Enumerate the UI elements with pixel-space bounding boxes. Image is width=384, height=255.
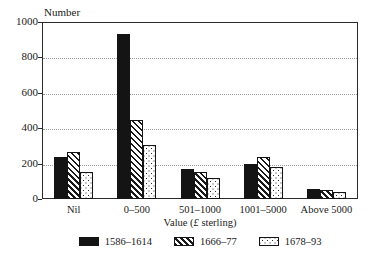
legend-item: 1666–77 bbox=[174, 236, 237, 248]
x-axis-tick-labels: Nil0–500501–10001001–5000Above 5000 bbox=[42, 203, 358, 217]
bar bbox=[143, 145, 156, 199]
bar bbox=[194, 172, 207, 199]
bar bbox=[270, 167, 283, 199]
legend-swatch bbox=[259, 237, 279, 246]
x-axis-tick-label: Above 5000 bbox=[295, 203, 358, 216]
bars-layer bbox=[42, 22, 358, 199]
bar bbox=[181, 169, 194, 199]
bar-group bbox=[244, 22, 283, 199]
y-axis-tick-label-wrap: 400 bbox=[0, 122, 38, 133]
bar bbox=[207, 178, 220, 199]
y-axis-tick-label: 1000 bbox=[2, 16, 38, 27]
y-axis-tick-label: 400 bbox=[2, 122, 38, 133]
legend-item: 1586–1614 bbox=[79, 236, 152, 248]
x-axis-tick-label: 0–500 bbox=[105, 203, 168, 216]
chart-legend: 1586–16141666–771678–93 bbox=[42, 234, 358, 249]
legend-label: 1586–1614 bbox=[105, 236, 152, 248]
bar bbox=[80, 172, 93, 199]
legend-label: 1666–77 bbox=[200, 236, 237, 248]
x-axis-tick-label: 1001–5000 bbox=[232, 203, 295, 216]
bar bbox=[67, 152, 80, 199]
legend-swatch bbox=[79, 237, 99, 246]
bar-group bbox=[307, 22, 346, 199]
bar bbox=[130, 120, 143, 199]
bar bbox=[320, 190, 333, 199]
y-axis-tick-label: 0 bbox=[2, 193, 38, 204]
y-axis-tick-label-wrap: 800 bbox=[0, 51, 38, 62]
bar-group bbox=[181, 22, 220, 199]
y-axis-tick-label-wrap: 1000 bbox=[0, 16, 38, 27]
x-axis-tick-label: Nil bbox=[42, 203, 105, 216]
legend-item: 1678–93 bbox=[259, 236, 322, 248]
bar bbox=[257, 157, 270, 199]
bar bbox=[333, 192, 346, 199]
x-axis-title-prefix: Value ( bbox=[164, 217, 194, 228]
bar bbox=[54, 157, 67, 199]
bar bbox=[117, 34, 130, 199]
y-axis-tick-label-wrap: 0 bbox=[0, 193, 38, 204]
y-axis-tick-label: 600 bbox=[2, 87, 38, 98]
y-axis-title: Number bbox=[44, 6, 80, 19]
bar-group bbox=[117, 22, 156, 199]
bar bbox=[244, 164, 257, 199]
bar-group bbox=[54, 22, 93, 199]
y-axis-tick-label-wrap: 600 bbox=[0, 87, 38, 98]
legend-swatch bbox=[174, 237, 194, 246]
bar-chart-figure: Number 02004006008001000 Nil0–500501–100… bbox=[0, 0, 384, 255]
x-axis-tick-label: 501–1000 bbox=[168, 203, 231, 216]
legend-label: 1678–93 bbox=[285, 236, 322, 248]
y-axis-tick bbox=[38, 199, 42, 200]
y-axis-tick-label: 800 bbox=[2, 51, 38, 62]
x-axis-title-suffix: sterling) bbox=[199, 217, 237, 228]
x-axis-title: Value (£ sterling) bbox=[42, 216, 358, 229]
y-axis-tick-label-wrap: 200 bbox=[0, 158, 38, 169]
y-axis-tick-label: 200 bbox=[2, 158, 38, 169]
bar bbox=[307, 189, 320, 199]
